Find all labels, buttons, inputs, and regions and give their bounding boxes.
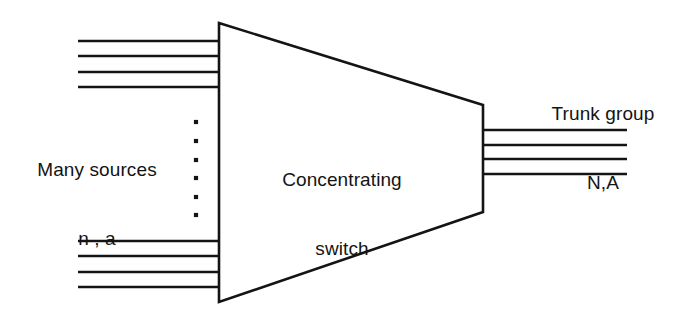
concentrating-switch-label-line1: Concentrating (262, 168, 422, 191)
trunk-group-label-line1: Trunk group (528, 102, 678, 125)
concentrating-switch-label-line2: switch (262, 237, 422, 260)
trunk-group-label-line2: N,A (528, 171, 678, 194)
ellipsis-dot-1 (194, 120, 198, 124)
ellipsis-dot-5 (194, 195, 198, 199)
ellipsis-dot-4 (194, 176, 198, 180)
concentrating-switch-label: Concentrating switch (262, 122, 422, 306)
many-sources-label-line1: Many sources (14, 158, 180, 181)
figure-root: Many sources n , a Concentrating switch … (0, 0, 687, 318)
vertical-ellipsis-icon (194, 120, 198, 217)
input-lines-top-group (78, 41, 219, 87)
trunk-group-label: Trunk group N,A (528, 56, 678, 240)
many-sources-label-line2: n , a (14, 227, 180, 250)
ellipsis-dot-3 (194, 158, 198, 162)
ellipsis-dot-6 (194, 213, 198, 217)
many-sources-label: Many sources n , a (14, 112, 180, 296)
ellipsis-dot-2 (194, 139, 198, 143)
